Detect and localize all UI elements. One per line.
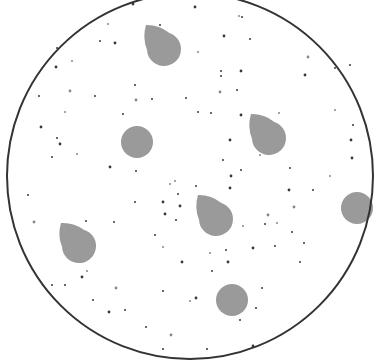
dot xyxy=(236,89,238,91)
dot xyxy=(145,326,147,328)
dot xyxy=(170,334,173,337)
disk-shape xyxy=(216,284,248,316)
dot xyxy=(134,84,136,86)
dot xyxy=(115,287,118,290)
dot xyxy=(261,287,263,289)
dot xyxy=(38,95,40,97)
dot xyxy=(255,307,257,309)
dot xyxy=(59,143,62,146)
dot xyxy=(240,114,243,117)
dot xyxy=(349,64,351,66)
dot xyxy=(352,124,354,126)
dot xyxy=(211,270,213,272)
dot xyxy=(227,261,230,264)
dot xyxy=(135,170,137,172)
dot xyxy=(238,15,240,17)
dot xyxy=(181,261,184,264)
dot xyxy=(195,185,197,187)
dot xyxy=(159,24,161,26)
dot xyxy=(108,311,111,314)
dot xyxy=(225,249,227,251)
disk-shape xyxy=(121,126,153,158)
dot xyxy=(209,252,211,254)
dot xyxy=(288,189,291,192)
dot xyxy=(71,60,73,62)
dot xyxy=(307,56,310,59)
dot xyxy=(92,299,94,301)
dot xyxy=(33,221,36,224)
dot xyxy=(56,137,58,139)
dot xyxy=(240,70,243,73)
dot xyxy=(94,95,96,97)
dot xyxy=(134,201,136,203)
dot xyxy=(51,156,53,158)
dot xyxy=(64,284,66,286)
dot xyxy=(252,247,255,250)
dot xyxy=(69,90,72,93)
dot xyxy=(122,113,124,115)
dot xyxy=(350,139,353,142)
dot xyxy=(55,66,58,69)
dot xyxy=(267,214,270,217)
dot xyxy=(304,74,307,77)
dot xyxy=(239,319,241,321)
dot xyxy=(276,222,278,224)
diagram-canvas xyxy=(0,0,374,361)
dot xyxy=(114,42,117,45)
dot xyxy=(334,109,336,111)
dot xyxy=(195,297,198,300)
dot xyxy=(40,126,43,129)
dot xyxy=(197,111,199,113)
dot xyxy=(220,70,222,72)
dot xyxy=(334,67,336,69)
dot xyxy=(162,348,164,350)
dot xyxy=(76,153,78,155)
dot xyxy=(242,225,244,227)
dot xyxy=(81,276,84,279)
dot xyxy=(185,97,187,99)
dot xyxy=(303,242,305,244)
dot xyxy=(151,98,153,100)
dot xyxy=(219,91,222,94)
dot xyxy=(312,189,314,191)
dot xyxy=(64,111,66,113)
dot xyxy=(51,284,53,286)
dot xyxy=(241,16,243,18)
dot xyxy=(229,187,232,190)
dot xyxy=(240,169,242,171)
dot xyxy=(107,23,109,25)
dot xyxy=(278,112,280,114)
dot xyxy=(210,112,212,114)
dot xyxy=(194,6,197,9)
dot xyxy=(179,205,182,208)
dot xyxy=(274,245,276,247)
dot xyxy=(289,167,291,169)
dot xyxy=(249,38,251,40)
dot xyxy=(162,201,165,204)
dot xyxy=(329,175,331,177)
dot xyxy=(197,51,199,53)
dot xyxy=(162,246,164,248)
dot xyxy=(223,35,226,38)
dot xyxy=(135,99,138,102)
dot xyxy=(85,220,87,222)
dot xyxy=(299,261,301,263)
dot xyxy=(164,213,167,216)
dot xyxy=(206,348,208,350)
dot xyxy=(174,180,176,182)
dot xyxy=(259,154,261,156)
dot xyxy=(177,193,179,195)
diagram-svg xyxy=(0,0,374,361)
dot xyxy=(230,175,233,178)
dot xyxy=(189,300,191,302)
dot xyxy=(264,223,266,225)
dot xyxy=(154,234,156,236)
dot xyxy=(175,219,177,221)
dot xyxy=(229,139,232,142)
dot xyxy=(86,270,88,272)
dot xyxy=(162,290,164,292)
dot xyxy=(291,231,293,233)
dot xyxy=(124,309,126,311)
dot xyxy=(113,221,115,223)
dot xyxy=(169,183,171,185)
